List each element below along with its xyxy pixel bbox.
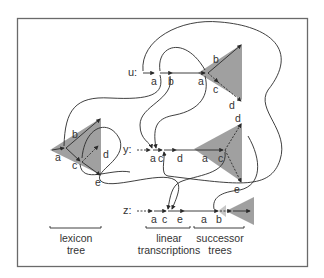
caption-successor-line2: trees [192, 244, 248, 256]
node-z-linear-a: a [151, 214, 157, 225]
node-u-tree-b: b [213, 54, 219, 65]
node-y-linear-c: c [158, 153, 163, 164]
node-u-tree-c: c [213, 84, 218, 95]
linear-bracket [146, 226, 190, 228]
node-z-linear-e: e [177, 214, 183, 225]
node-lexicon-c: c [72, 160, 77, 171]
node-z-linear-c: c [162, 214, 167, 225]
node-z-tree-b: b [216, 214, 222, 225]
node-y-tree-d: d [235, 113, 241, 124]
node-y-linear-a: a [150, 153, 156, 164]
caption-successor-trees: successor trees [192, 232, 248, 256]
caption-lexicon-tree: lexicon tree [48, 232, 104, 256]
row-label-y: y: [123, 144, 132, 155]
node-y-linear-d: d [177, 153, 183, 164]
node-u-linear-a: a [151, 76, 157, 87]
successor-tree-u-shape [198, 44, 242, 100]
successor-bracket [194, 226, 244, 228]
lexicon-bracket [50, 226, 101, 228]
node-lexicon-e: e [95, 177, 101, 188]
node-y-tree-e: e [234, 184, 240, 195]
node-lexicon-d: d [103, 149, 109, 160]
row-label-u: u: [128, 67, 137, 78]
row-label-z: z: [123, 205, 132, 216]
node-lexicon-a: a [55, 152, 61, 163]
node-u-tree-d: d [229, 100, 235, 111]
node-z-tree-a: a [201, 214, 207, 225]
node-u-linear-b: b [168, 76, 174, 87]
caption-successor-line1: successor [192, 232, 248, 244]
node-lexicon-b: b [72, 129, 78, 140]
node-y-tree-a: a [202, 153, 208, 164]
caption-lexicon-line2: tree [48, 244, 104, 256]
node-u-tree-a: a [198, 76, 204, 87]
caption-lexicon-line1: lexicon [48, 232, 104, 244]
node-y-tree-c: c [218, 153, 223, 164]
